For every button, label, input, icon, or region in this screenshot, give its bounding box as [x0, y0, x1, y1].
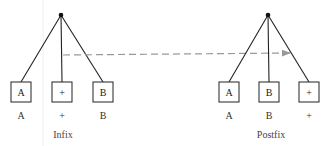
root-node: [266, 13, 271, 18]
sequence-label: B: [100, 110, 107, 121]
edge-right: [268, 15, 309, 82]
edge-middle: [61, 15, 62, 82]
sequence-label: A: [17, 110, 25, 121]
node-text: A: [225, 87, 233, 98]
edge-right: [61, 15, 103, 82]
node-text: +: [59, 87, 65, 98]
traversal-diagram: A + B A + B Infix A B + A B + Postfix: [0, 0, 332, 146]
node-text: B: [100, 87, 107, 98]
sequence-label: A: [225, 110, 233, 121]
edge-left: [21, 15, 61, 82]
sequence-label: B: [266, 110, 273, 121]
edge-left: [229, 15, 268, 82]
edge-middle: [268, 15, 269, 82]
infix-tree: A + B A + B Infix: [11, 13, 113, 140]
node-text: +: [306, 87, 312, 98]
node-text: A: [17, 87, 25, 98]
infix-caption: Infix: [53, 129, 72, 140]
postfix-caption: Postfix: [257, 129, 285, 140]
sequence-label: +: [306, 110, 312, 121]
transform-arrow: [63, 53, 290, 55]
postfix-tree: A B + A B + Postfix: [219, 13, 319, 140]
node-text: B: [266, 87, 273, 98]
sequence-label: +: [59, 110, 65, 121]
root-node: [59, 13, 64, 18]
